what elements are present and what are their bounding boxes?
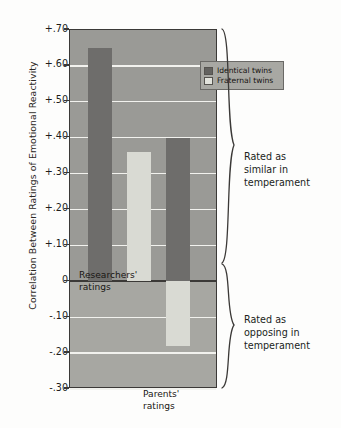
- y-tick-label: 0: [22, 274, 68, 285]
- y-tick-label: +.60: [22, 58, 68, 69]
- y-tick-label: +.20: [22, 202, 68, 213]
- y-axis-title: Correlation Between Ratings of Emotional…: [27, 26, 38, 346]
- group-label-researchers: Researchers' ratings: [79, 270, 137, 293]
- bar-light-3: [166, 281, 190, 346]
- y-tick-label: +.50: [22, 94, 68, 105]
- bar-light-1: [127, 152, 151, 281]
- y-tick-label: -.30: [22, 382, 68, 393]
- y-tick-label: +.40: [22, 130, 68, 141]
- group-label-parents-line1: Parents': [143, 389, 179, 401]
- legend-swatch-icon-fraternal: [204, 77, 213, 85]
- annotation-opposing-line2: opposing in: [244, 326, 310, 339]
- annotation-similar-line2: similar in: [244, 163, 310, 176]
- y-tick-label: -.10: [22, 310, 68, 321]
- annotation-similar-temperament: Rated as similar in temperament: [244, 150, 310, 189]
- group-label-researchers-line2: ratings: [79, 282, 137, 294]
- plot-negative-region: [70, 281, 216, 387]
- brace-opposing-icon: [219, 262, 245, 390]
- chart-figure: Correlation Between Ratings of Emotional…: [0, 0, 341, 428]
- gridline: [70, 317, 216, 318]
- group-label-researchers-line1: Researchers': [79, 270, 137, 282]
- annotation-opposing-line1: Rated as: [244, 313, 310, 326]
- annotation-similar-line3: temperament: [244, 176, 310, 189]
- group-label-parents: Parents' ratings: [143, 389, 179, 412]
- bar-dark-0: [88, 48, 112, 281]
- annotation-opposing-line3: temperament: [244, 339, 310, 352]
- annotation-opposing-temperament: Rated as opposing in temperament: [244, 313, 310, 352]
- plot-area: Researchers' ratings Parents' ratings Id…: [69, 29, 217, 388]
- group-label-parents-line2: ratings: [143, 401, 179, 413]
- gridline: [70, 352, 216, 353]
- legend-swatch-icon-identical: [204, 67, 213, 75]
- annotation-similar-line1: Rated as: [244, 150, 310, 163]
- bar-dark-2: [166, 138, 190, 282]
- y-tick-label: -.20: [22, 346, 68, 357]
- y-tick-label: +.70: [22, 23, 68, 34]
- brace-similar-icon: [219, 27, 245, 265]
- y-tick-label: +.30: [22, 166, 68, 177]
- y-tick-label: +.10: [22, 238, 68, 249]
